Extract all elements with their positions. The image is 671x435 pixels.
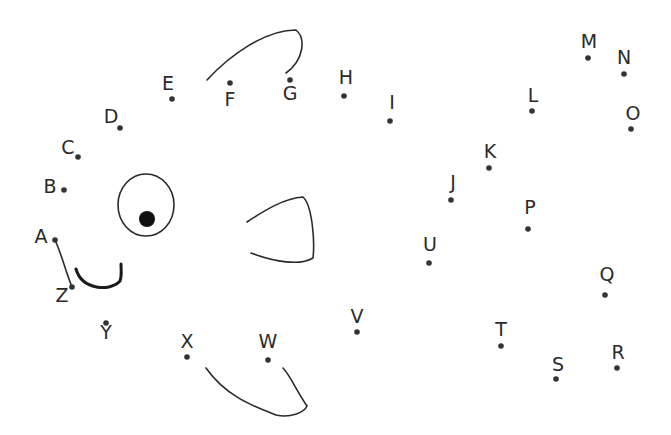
dot-point-t: T: [494, 318, 507, 349]
dot-marker: [341, 93, 347, 99]
dot-marker: [621, 71, 627, 77]
dot-point-o: O: [626, 102, 641, 132]
dot-label: I: [389, 91, 395, 113]
dot-marker: [387, 118, 393, 124]
dot-point-v: V: [351, 305, 364, 335]
dot-point-g: G: [283, 77, 298, 103]
dot-marker: [227, 80, 233, 86]
dot-label: P: [524, 196, 535, 218]
dot-label: X: [180, 330, 193, 352]
dot-point-k: K: [484, 140, 497, 171]
dot-label: C: [61, 136, 74, 158]
dot-marker: [486, 165, 492, 171]
dot-marker: [628, 126, 634, 132]
dot-point-m: M: [581, 30, 597, 61]
dot-point-p: P: [524, 196, 535, 232]
dot-marker: [553, 376, 559, 382]
dot-marker: [184, 354, 190, 360]
dot-point-y: Y: [99, 320, 112, 342]
dot-label: V: [351, 305, 364, 327]
dot-point-j: J: [448, 171, 456, 203]
dot-label: N: [617, 46, 631, 68]
mouth-curve: [76, 264, 121, 288]
dot-marker: [69, 284, 75, 290]
dot-point-w: W: [259, 330, 278, 363]
dot-label: M: [581, 30, 597, 52]
dot-label: O: [626, 102, 641, 124]
dot-point-u: U: [423, 233, 437, 266]
side-fin-outline: [247, 197, 314, 262]
dot-marker: [602, 292, 608, 298]
dot-point-x: X: [180, 330, 193, 360]
numbered-dots: ABCDEFGHIJKLMNOPQRSTUVWXYZ: [35, 30, 641, 382]
dot-point-d: D: [104, 105, 123, 131]
dot-label: A: [35, 225, 48, 247]
dot-label: T: [494, 318, 507, 340]
dot-label: Y: [99, 321, 112, 343]
eye-pupil: [139, 211, 155, 227]
dot-label: Z: [55, 284, 68, 306]
dot-marker: [426, 260, 432, 266]
dot-label: D: [104, 105, 119, 127]
dot-point-b: B: [43, 175, 66, 197]
dot-point-c: C: [61, 136, 80, 160]
dot-point-l: L: [528, 84, 539, 114]
dot-marker: [75, 154, 81, 160]
dot-label: Q: [600, 263, 615, 285]
dot-label: K: [484, 140, 497, 162]
dot-label: U: [423, 233, 437, 255]
dot-point-s: S: [552, 353, 564, 382]
dot-marker: [354, 329, 360, 335]
dot-marker: [265, 357, 271, 363]
dot-label: L: [528, 84, 539, 106]
dot-point-n: N: [617, 46, 631, 77]
dot-label: S: [552, 353, 564, 375]
dot-marker: [614, 365, 620, 371]
drawn-outlines: [55, 30, 314, 416]
dot-label: G: [283, 82, 298, 104]
dot-point-z: Z: [55, 284, 74, 306]
fish-drawing: ABCDEFGHIJKLMNOPQRSTUVWXYZ: [0, 0, 671, 435]
dot-marker: [498, 343, 504, 349]
bottom-fin-outline: [206, 368, 307, 416]
dot-to-dot-worksheet: ABCDEFGHIJKLMNOPQRSTUVWXYZ: [0, 0, 671, 435]
dot-point-q: Q: [600, 263, 615, 298]
dot-point-a: A: [35, 225, 58, 247]
dot-label: F: [225, 88, 236, 110]
dot-marker: [448, 197, 454, 203]
top-fin-outline: [207, 30, 302, 80]
connector-line-a-z: [55, 240, 72, 287]
dot-label: R: [611, 341, 624, 363]
dot-label: J: [449, 171, 456, 193]
dot-point-i: I: [387, 91, 395, 124]
dot-label: E: [162, 72, 174, 94]
dot-marker: [169, 96, 175, 102]
dot-point-e: E: [162, 72, 175, 102]
dot-label: H: [339, 66, 353, 88]
dot-marker: [61, 187, 67, 193]
dot-marker: [525, 226, 531, 232]
dot-point-r: R: [611, 341, 624, 371]
dot-marker: [529, 108, 535, 114]
dot-marker: [585, 55, 591, 61]
dot-point-f: F: [225, 80, 236, 109]
dot-label: B: [43, 175, 56, 197]
dot-marker: [52, 237, 58, 243]
dot-point-h: H: [339, 66, 353, 99]
dot-label: W: [259, 330, 278, 352]
